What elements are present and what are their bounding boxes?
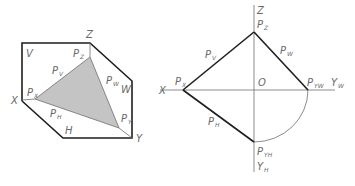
svg-text:P: P (257, 146, 264, 157)
svg-text:P: P (280, 45, 287, 56)
axis-label-yh: Y H (257, 161, 269, 173)
svg-text:P: P (257, 19, 264, 30)
svg-text:Z: Z (79, 53, 85, 60)
label-pw: P W (106, 75, 120, 87)
label-pw: P W (280, 45, 294, 57)
axis-label-z: Z (85, 29, 94, 40)
svg-text:X: X (181, 81, 187, 88)
label-ph: P H (50, 108, 62, 120)
edge-py-to-y (119, 128, 132, 138)
svg-text:P: P (307, 77, 314, 88)
svg-text:H: H (57, 113, 62, 120)
label-pz: P Z (73, 48, 85, 60)
axis-label-x: X (10, 95, 19, 106)
svg-text:P: P (106, 75, 113, 86)
origin-label: O (258, 77, 266, 88)
axis-label-y: Y (136, 133, 143, 144)
svg-text:P: P (52, 65, 59, 76)
svg-text:P: P (121, 113, 128, 124)
svg-text:YW: YW (314, 82, 325, 89)
svg-text:W: W (287, 50, 294, 57)
svg-text:Y: Y (331, 77, 338, 88)
label-pyw: P YW (307, 77, 325, 89)
svg-text:V: V (59, 70, 64, 77)
svg-text:X: X (33, 92, 39, 99)
axis-label-z: Z (256, 5, 265, 16)
plane-label-h: H (65, 125, 73, 136)
label-pz: P Z (257, 19, 269, 31)
svg-text:W: W (338, 82, 345, 89)
svg-text:H: H (215, 121, 220, 128)
label-px: P X (27, 87, 39, 99)
label-ph: P H (208, 116, 220, 128)
svg-text:P: P (205, 49, 212, 60)
axis-label-yw: Y W (331, 77, 345, 89)
svg-text:P: P (175, 76, 182, 87)
trace-pv (183, 32, 254, 90)
plane-label-w: W (121, 84, 132, 95)
axis-label-x: X (158, 85, 167, 96)
plane-label-v: V (26, 48, 34, 59)
label-pv: P V (205, 49, 217, 61)
svg-text:H: H (264, 166, 269, 173)
svg-text:Z: Z (263, 24, 269, 31)
left-axonometric-figure: Z X Y V W H P X P Z P Y P V P W P H (10, 29, 143, 144)
trace-triangle (35, 57, 119, 128)
label-pv: P V (52, 65, 64, 77)
label-pyh: P YH (257, 146, 273, 158)
svg-text:V: V (212, 54, 217, 61)
right-orthographic-figure: Z X O Y W Y H P Z P X P YW P YH P (158, 5, 345, 173)
svg-text:P: P (73, 48, 80, 59)
svg-text:W: W (113, 80, 120, 87)
svg-text:YH: YH (264, 151, 273, 158)
projection-diagram: Z X Y V W H P X P Z P Y P V P W P H (0, 0, 355, 186)
svg-text:P: P (208, 116, 215, 127)
rotation-arc (254, 90, 308, 142)
svg-text:P: P (27, 87, 34, 98)
svg-text:P: P (50, 108, 57, 119)
trace-ph (183, 90, 254, 142)
svg-text:Y: Y (257, 161, 264, 172)
edge-x-to-px (22, 99, 35, 100)
label-px: P X (175, 76, 187, 88)
